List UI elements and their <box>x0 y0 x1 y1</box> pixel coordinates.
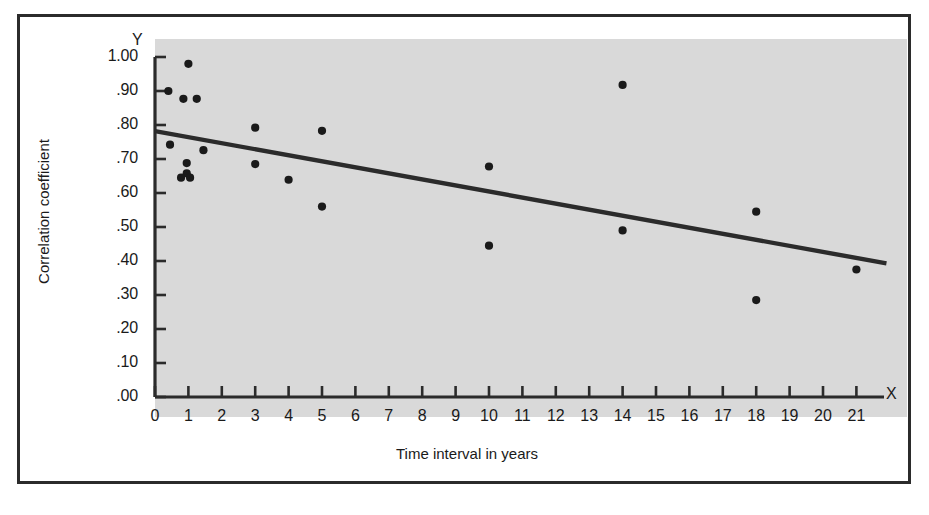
trend-line <box>155 131 886 263</box>
data-point <box>186 174 194 182</box>
chart-svg <box>20 17 914 487</box>
data-point <box>619 81 627 89</box>
data-point <box>251 160 259 168</box>
data-point <box>177 174 185 182</box>
data-point <box>285 176 293 184</box>
data-point <box>318 127 326 135</box>
data-point <box>179 95 187 103</box>
data-point <box>199 146 207 154</box>
data-point <box>619 226 627 234</box>
data-point <box>752 296 760 304</box>
data-point <box>166 141 174 149</box>
data-point <box>852 265 860 273</box>
data-point <box>485 162 493 170</box>
figure-frame: Y X Correlation coefficient Time interva… <box>17 14 911 484</box>
data-point <box>485 242 493 250</box>
data-point <box>193 95 201 103</box>
data-point <box>752 208 760 216</box>
data-point <box>251 124 259 132</box>
data-point <box>318 203 326 211</box>
data-point <box>183 159 191 167</box>
data-point <box>184 60 192 68</box>
data-point <box>164 87 172 95</box>
